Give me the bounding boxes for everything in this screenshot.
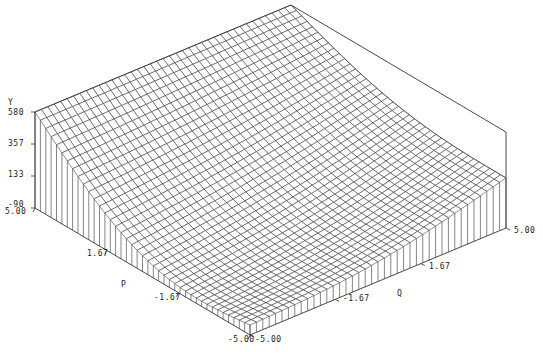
q-tick-5: 5.00 [514,226,535,235]
z-tick-580: 580 [8,108,24,117]
p-tick-5: 5.00 [5,207,26,216]
p-tick-m5: -5.00 [228,335,255,344]
surface-plot [0,0,543,359]
p-axis-label: P [121,280,126,289]
q-tick-m1-67: -1.67 [343,294,370,303]
surface-wireframe [35,5,506,325]
z-axis-label: Y [8,98,13,107]
z-tick-133: 133 [8,170,24,179]
q-tick-m5: -5.00 [255,335,282,344]
q-tick-1-67: 1.67 [429,262,450,271]
z-tick-357: 357 [8,139,24,148]
p-tick-1-67: 1.67 [87,249,108,258]
q-axis-label: Q [397,289,402,298]
p-tick-m1-67: -1.67 [154,293,181,302]
